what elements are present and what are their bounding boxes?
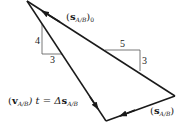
slope-right-rise: 3 <box>142 56 147 66</box>
slope-left-rise: 4 <box>35 36 40 46</box>
label-v-ab-t: (vA/B) t = ΔsA/B <box>8 96 78 107</box>
label-s-ab: (sA/B) <box>150 106 174 117</box>
slope-triangle-right <box>105 50 140 71</box>
slope-right-run: 5 <box>120 39 125 49</box>
vector-triangle-diagram: (sA/B)0 4 3 5 3 (vA/B) t = ΔsA/B (sA/B) <box>0 0 182 133</box>
slope-left-run: 3 <box>50 55 55 65</box>
label-s-ab-0: (sA/B)0 <box>66 12 94 23</box>
